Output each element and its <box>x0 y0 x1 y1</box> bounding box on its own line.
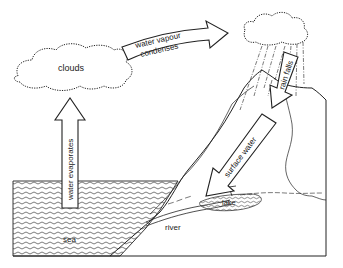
surface-water-label: surface water <box>222 135 258 179</box>
mountain <box>110 70 326 256</box>
sea-label: sea <box>63 235 76 244</box>
clouds-label: clouds <box>58 63 85 73</box>
arrow-rain-falls: rain falls <box>270 52 298 108</box>
lake-label: lake <box>222 198 236 207</box>
water-cycle-diagram: clouds water evaporates water vapour con… <box>0 0 343 268</box>
arrow-surface-water: surface water <box>206 114 276 196</box>
arrow-water-vapour-condenses: water vapour condenses <box>122 21 228 60</box>
evaporates-label: water evaporates <box>66 139 75 201</box>
cloud-small <box>244 12 307 45</box>
river-label: river <box>165 223 181 232</box>
